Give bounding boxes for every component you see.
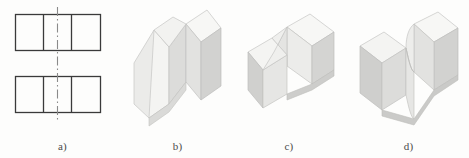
caption-d: d) bbox=[348, 140, 469, 152]
isometric-solid-d bbox=[348, 0, 469, 130]
panel-c-isometric: c) bbox=[230, 0, 348, 158]
caption-b: b) bbox=[125, 140, 230, 152]
solid-c-faces bbox=[248, 14, 334, 108]
panel-a-orthographic: a) bbox=[0, 0, 125, 158]
caption-c: c) bbox=[230, 140, 348, 152]
panel-b-isometric: b) bbox=[125, 0, 230, 158]
isometric-solid-c bbox=[230, 0, 348, 130]
caption-a: a) bbox=[0, 140, 125, 152]
solid-b-faces bbox=[134, 10, 221, 126]
figure-root: a) b) bbox=[0, 0, 469, 158]
solid-d-faces bbox=[360, 12, 458, 125]
panel-d-isometric: d) bbox=[348, 0, 469, 158]
isometric-solid-b bbox=[125, 0, 230, 130]
orthographic-views-drawing bbox=[0, 0, 125, 130]
